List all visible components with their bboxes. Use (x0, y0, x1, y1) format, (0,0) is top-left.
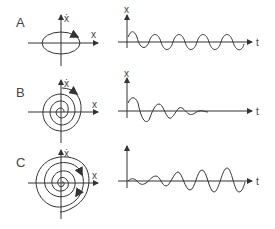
series-c-t-label: t (256, 176, 259, 187)
row-label-b: B (16, 85, 25, 100)
row-b: B ẋ x x t (16, 68, 259, 143)
row-a: A ẋ x x t (16, 4, 259, 66)
phase-c-ydot-label: ẋ (64, 148, 69, 159)
time-series-a: x t (118, 4, 259, 50)
row-c: C ẋ x t (16, 146, 259, 219)
oscillation-diagram: A ẋ x x t B ẋ x (0, 0, 275, 229)
row-label-a: A (16, 15, 25, 30)
phase-a-x-label: x (91, 29, 96, 40)
series-a-t-label: t (256, 37, 259, 48)
series-b-x-label: x (124, 68, 129, 79)
phase-b-ydot-label: ẋ (64, 78, 69, 89)
row-label-c: C (16, 155, 25, 170)
phase-b-x-label: x (92, 99, 97, 110)
phase-portrait-c: ẋ x (28, 148, 98, 219)
series-b-t-label: t (256, 106, 259, 117)
phase-portrait-a: ẋ x (28, 13, 98, 66)
time-series-b: x t (118, 68, 259, 122)
series-a-x-label: x (124, 4, 129, 15)
phase-a-ydot-label: ẋ (64, 13, 69, 24)
phase-portrait-b: ẋ x (28, 78, 98, 143)
time-series-c: t (118, 146, 259, 192)
phase-c-x-label: x (92, 170, 97, 181)
